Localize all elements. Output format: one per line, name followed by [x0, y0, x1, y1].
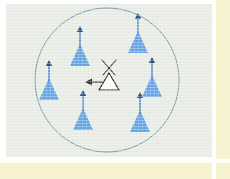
figure-root [0, 0, 230, 179]
antenna-tower-icon [130, 92, 150, 132]
antenna-tower-icon [142, 57, 162, 97]
antenna-tower-icon [39, 60, 59, 100]
scan-gutter-right [212, 0, 216, 179]
tower-tip [77, 26, 83, 32]
tower-tip [80, 90, 86, 96]
tower-layer [39, 13, 162, 132]
tower-tip [149, 57, 155, 63]
diagram-canvas [6, 4, 212, 157]
scan-border-bottom [0, 163, 230, 179]
antenna-tower-icon [70, 26, 90, 66]
scan-border-right [216, 0, 230, 179]
tower-tip [137, 92, 143, 98]
diagram-svg [6, 4, 212, 157]
hub-layer [85, 60, 119, 90]
arrow-left-icon [85, 78, 92, 85]
antenna-tower-icon [73, 90, 93, 130]
scan-gutter-bottom [0, 159, 230, 163]
tower-tip [46, 60, 52, 66]
base-station-icon [85, 60, 119, 90]
